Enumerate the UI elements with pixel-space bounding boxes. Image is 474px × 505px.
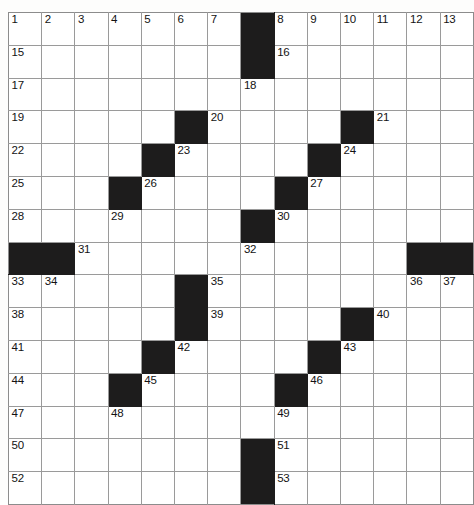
grid-cell[interactable] [241,340,274,373]
grid-cell[interactable] [75,406,108,439]
grid-cell[interactable] [341,472,374,505]
grid-cell[interactable] [108,45,141,78]
grid-cell[interactable] [307,78,340,111]
grid-cell[interactable] [42,176,75,209]
grid-cell[interactable] [42,78,75,111]
grid-cell[interactable]: 45 [141,373,174,406]
grid-cell[interactable]: 8 [274,13,307,46]
grid-cell[interactable]: 16 [274,45,307,78]
grid-cell[interactable] [42,340,75,373]
grid-cell[interactable] [108,308,141,341]
grid-cell[interactable] [274,111,307,144]
grid-cell[interactable] [374,439,407,472]
grid-cell[interactable] [241,176,274,209]
grid-cell[interactable] [341,406,374,439]
grid-cell[interactable]: 37 [440,275,473,308]
grid-cell[interactable]: 24 [341,144,374,177]
grid-cell[interactable] [440,439,473,472]
grid-cell[interactable] [407,308,440,341]
grid-cell[interactable]: 2 [42,13,75,46]
grid-cell[interactable]: 11 [374,13,407,46]
grid-cell[interactable] [75,144,108,177]
grid-cell[interactable] [274,340,307,373]
grid-cell[interactable] [440,209,473,242]
grid-cell[interactable] [75,472,108,505]
grid-cell[interactable] [241,373,274,406]
grid-cell[interactable]: 35 [208,275,241,308]
grid-cell[interactable] [374,176,407,209]
grid-cell[interactable] [440,472,473,505]
grid-cell[interactable] [440,111,473,144]
grid-cell[interactable] [175,242,208,275]
grid-cell[interactable]: 39 [208,308,241,341]
grid-cell[interactable] [175,472,208,505]
grid-cell[interactable] [108,340,141,373]
grid-cell[interactable] [374,275,407,308]
grid-cell[interactable] [42,472,75,505]
grid-cell[interactable]: 50 [9,439,42,472]
grid-cell[interactable] [407,439,440,472]
grid-cell[interactable] [175,176,208,209]
grid-cell[interactable] [175,373,208,406]
grid-cell[interactable]: 46 [307,373,340,406]
grid-cell[interactable] [341,45,374,78]
grid-cell[interactable]: 27 [307,176,340,209]
grid-cell[interactable] [208,242,241,275]
grid-cell[interactable] [440,144,473,177]
grid-cell[interactable] [175,406,208,439]
grid-cell[interactable] [241,406,274,439]
grid-cell[interactable] [440,308,473,341]
grid-cell[interactable] [108,439,141,472]
grid-cell[interactable]: 1 [9,13,42,46]
grid-cell[interactable]: 34 [42,275,75,308]
grid-cell[interactable] [407,78,440,111]
grid-cell[interactable]: 33 [9,275,42,308]
grid-cell[interactable]: 38 [9,308,42,341]
grid-cell[interactable]: 5 [141,13,174,46]
grid-cell[interactable] [141,439,174,472]
grid-cell[interactable] [274,78,307,111]
grid-cell[interactable] [175,45,208,78]
grid-cell[interactable] [208,340,241,373]
grid-cell[interactable] [75,308,108,341]
grid-cell[interactable]: 41 [9,340,42,373]
crossword-grid[interactable]: 1234567891011121315161718192021222324252… [8,12,474,505]
grid-cell[interactable] [75,78,108,111]
grid-cell[interactable]: 49 [274,406,307,439]
grid-cell[interactable] [42,406,75,439]
grid-cell[interactable] [108,242,141,275]
grid-cell[interactable] [208,406,241,439]
grid-cell[interactable] [440,45,473,78]
grid-cell[interactable] [42,209,75,242]
grid-cell[interactable] [141,45,174,78]
grid-cell[interactable] [108,144,141,177]
grid-cell[interactable]: 21 [374,111,407,144]
grid-cell[interactable] [307,209,340,242]
grid-cell[interactable] [75,373,108,406]
grid-cell[interactable] [241,275,274,308]
grid-cell[interactable] [75,111,108,144]
grid-cell[interactable] [374,78,407,111]
grid-cell[interactable]: 42 [175,340,208,373]
grid-cell[interactable] [374,373,407,406]
grid-cell[interactable] [141,209,174,242]
grid-cell[interactable] [42,144,75,177]
grid-cell[interactable]: 47 [9,406,42,439]
grid-cell[interactable] [208,78,241,111]
grid-cell[interactable] [341,439,374,472]
grid-cell[interactable] [407,144,440,177]
grid-cell[interactable] [42,439,75,472]
grid-cell[interactable] [208,209,241,242]
grid-cell[interactable] [108,275,141,308]
grid-cell[interactable] [108,472,141,505]
grid-cell[interactable] [374,406,407,439]
grid-cell[interactable]: 31 [75,242,108,275]
grid-cell[interactable] [75,340,108,373]
grid-cell[interactable] [341,373,374,406]
grid-cell[interactable] [407,406,440,439]
grid-cell[interactable] [307,439,340,472]
grid-cell[interactable] [307,472,340,505]
grid-cell[interactable] [307,45,340,78]
grid-cell[interactable] [208,439,241,472]
grid-cell[interactable]: 10 [341,13,374,46]
